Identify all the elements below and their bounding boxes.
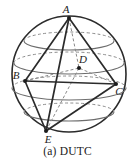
vertex-label-C: C bbox=[115, 85, 123, 97]
vertex-label-E: E bbox=[44, 133, 52, 145]
vertex-label-B: B bbox=[13, 69, 20, 81]
vertex-label-A: A bbox=[62, 3, 70, 15]
vertex-dot-D bbox=[77, 66, 81, 70]
figure-container: A B C D E (a) DUTC bbox=[0, 0, 135, 168]
edge-B-E bbox=[25, 81, 46, 131]
figure-caption: (a) DUTC bbox=[0, 145, 135, 157]
vertex-dot-B bbox=[23, 79, 27, 83]
edge-C-E bbox=[46, 84, 116, 131]
latitude-upper-mid-back bbox=[14, 52, 124, 63]
latitude-upper-back bbox=[24, 32, 114, 41]
latitude-upper-front bbox=[24, 41, 114, 50]
vertex-label-D: D bbox=[78, 53, 87, 65]
sphere-polyhedron-figure: A B C D E bbox=[0, 0, 135, 168]
vertex-dot-A bbox=[67, 16, 71, 20]
